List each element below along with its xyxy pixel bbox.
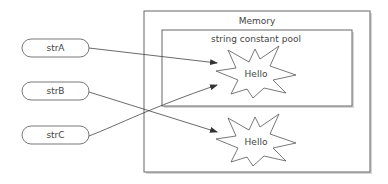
variable-strC: strC [22, 126, 89, 144]
variable-strB: strB [22, 82, 89, 100]
svg-text:strC: strC [46, 130, 64, 140]
heap-hello-text: Hello [245, 137, 268, 147]
memory-label: Memory [239, 16, 276, 26]
svg-text:strA: strA [46, 43, 65, 53]
pool-hello-text: Hello [245, 69, 268, 79]
memory-diagram: Memory string constant pool Hello Hello … [0, 0, 388, 184]
pool-label: string constant pool [211, 34, 301, 44]
variable-strA: strA [22, 39, 89, 57]
svg-text:strB: strB [46, 86, 64, 96]
